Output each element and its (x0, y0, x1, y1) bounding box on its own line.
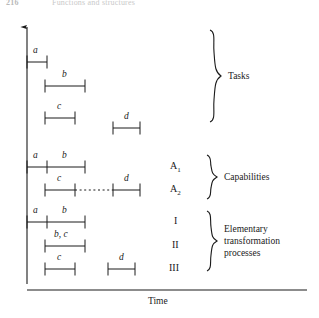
bar-label-elem-d: d (119, 253, 124, 263)
bar-label-cap-a: a (33, 151, 38, 161)
group-label-elementary-line2: transformation (224, 236, 280, 247)
task-bar-a (27, 56, 47, 69)
bar-label-elem-b: b (62, 206, 67, 216)
bar-label-task-c: c (57, 102, 61, 112)
row-label-II: II (172, 240, 179, 250)
figure-timeline-diagram: 216 Functions and structures (0, 0, 319, 318)
brace-capabilities (207, 155, 217, 199)
task-bar-b (45, 80, 85, 93)
bar-label-task-a: a (33, 46, 38, 56)
elementary-row-II-bars (45, 240, 85, 253)
bar-label-task-b: b (62, 70, 67, 80)
task-bar-c (45, 112, 75, 125)
task-bar-d (113, 122, 140, 135)
bar-label-cap-c: c (57, 174, 61, 184)
brace-tasks (210, 30, 221, 122)
group-label-tasks: Tasks (228, 71, 250, 82)
row-label-III: III (169, 263, 179, 273)
brace-elementary (207, 211, 217, 271)
bar-label-elem-a: a (33, 206, 38, 216)
group-label-elementary-line1: Elementary (224, 224, 268, 235)
elementary-row-I-bars (27, 216, 85, 229)
bar-label-task-d: d (124, 112, 129, 122)
row-label-a2: A2 (170, 184, 181, 197)
bar-label-elem-bc: b, c (54, 230, 68, 240)
group-label-capabilities: Capabilities (224, 172, 269, 183)
row-label-I: I (174, 216, 177, 226)
x-axis-label: Time (148, 297, 168, 307)
capability-a2-bars (45, 184, 140, 197)
elementary-row-III-bars (45, 263, 135, 276)
capability-a1-bars (27, 161, 85, 174)
row-label-a1: A1 (170, 161, 181, 174)
group-label-elementary-line3: processes (224, 248, 260, 259)
bar-label-elem-c: c (57, 253, 61, 263)
diagram-canvas (0, 0, 319, 318)
bar-label-cap-b: b (62, 151, 67, 161)
bar-label-cap-d: d (124, 174, 129, 184)
